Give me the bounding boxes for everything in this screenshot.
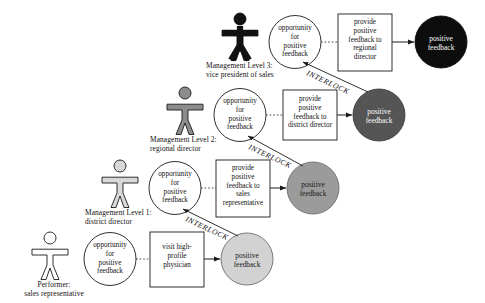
opportunity-ellipse-level-3 bbox=[269, 16, 321, 69]
result-circle-level-3 bbox=[415, 16, 467, 68]
action-box-level-2 bbox=[283, 90, 337, 140]
row-level-3 bbox=[222, 13, 467, 71]
result-circle-level-1 bbox=[287, 162, 339, 214]
result-circle-level-2 bbox=[353, 89, 405, 141]
opportunity-ellipse-performer bbox=[84, 233, 136, 286]
row-performer bbox=[32, 232, 273, 287]
action-box-performer bbox=[150, 232, 204, 287]
diagram-vector-layer bbox=[0, 0, 485, 303]
row-level-2 bbox=[167, 87, 405, 142]
action-box-level-1 bbox=[216, 160, 270, 217]
row-level-1 bbox=[102, 160, 339, 217]
result-circle-performer bbox=[221, 233, 273, 285]
actor-figure-performer bbox=[32, 232, 68, 280]
actor-figure-level-3 bbox=[222, 13, 258, 61]
action-box-level-3 bbox=[338, 14, 392, 71]
diagram-canvas: Management Level 3: vice president of sa… bbox=[0, 0, 485, 303]
opportunity-ellipse-level-1 bbox=[149, 162, 201, 215]
opportunity-ellipse-level-2 bbox=[214, 89, 266, 142]
actor-figure-level-2 bbox=[167, 87, 203, 135]
actor-figure-level-1 bbox=[102, 160, 138, 208]
